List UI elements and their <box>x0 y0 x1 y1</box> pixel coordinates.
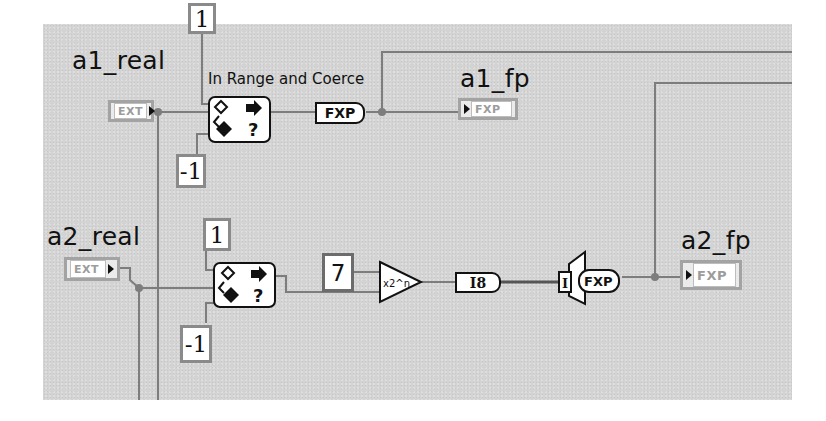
upper-limit-constant-1[interactable]: 1 <box>188 3 216 34</box>
scale-by-power-of-2-icon[interactable]: x2^n <box>378 260 424 306</box>
to-fixed-point-conversion-1[interactable]: FXP <box>315 102 365 124</box>
a2-fp-label: a2_fp <box>681 228 751 253</box>
to-i8-conversion[interactable]: I8 <box>455 272 501 293</box>
terminal-type-text: EXT <box>114 103 147 119</box>
scale-function-text: x2^n <box>383 278 410 289</box>
a1-fp-label: a1_fp <box>460 66 530 91</box>
scale-exponent-constant[interactable]: 7 <box>322 253 354 292</box>
input-arrow-icon <box>686 270 692 280</box>
output-arrow-icon <box>108 264 114 274</box>
lower-limit-constant-1[interactable]: -1 <box>176 154 206 188</box>
svg-text:?: ? <box>253 285 263 305</box>
a1-real-control-terminal[interactable]: EXT <box>108 100 154 122</box>
in-range-and-coerce-icon: ? <box>210 98 268 140</box>
cast-input-type-text: I <box>562 276 568 291</box>
terminal-type-text: FXP <box>693 263 736 287</box>
terminal-type-text: EXT <box>70 260 106 278</box>
a2-real-control-terminal[interactable]: EXT <box>64 257 120 281</box>
input-arrow-icon <box>464 104 470 114</box>
cast-output-type-text: FXP <box>584 274 612 289</box>
a1-real-label: a1_real <box>72 48 165 73</box>
a2-fp-indicator-terminal[interactable]: FXP <box>680 260 742 290</box>
svg-text:?: ? <box>248 119 258 140</box>
lower-limit-constant-2[interactable]: -1 <box>180 325 212 363</box>
in-range-and-coerce-node-1[interactable]: ? <box>208 96 271 143</box>
fixed-point-cast-icon[interactable]: I FXP <box>555 246 625 312</box>
terminal-type-text: FXP <box>471 101 512 117</box>
in-range-and-coerce-icon: ? <box>215 264 273 305</box>
in-range-and-coerce-node-2[interactable]: ? <box>213 262 276 308</box>
a1-fp-indicator-terminal[interactable]: FXP <box>458 98 518 120</box>
upper-limit-constant-2[interactable]: 1 <box>203 218 231 251</box>
a2-real-label: a2_real <box>47 224 140 249</box>
in-range-and-coerce-label: In Range and Coerce <box>208 72 364 87</box>
output-arrow-icon <box>149 106 155 116</box>
